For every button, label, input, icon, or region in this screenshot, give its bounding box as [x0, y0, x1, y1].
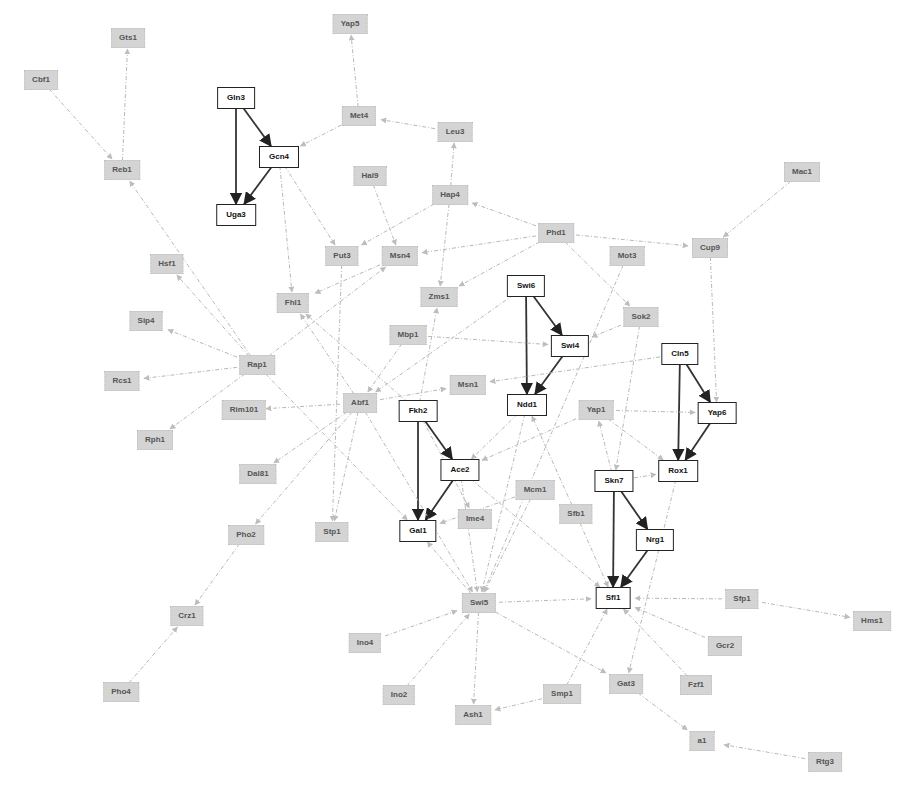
node-gcr2[interactable]: Gcr2 — [708, 636, 742, 656]
edge-cln5-to-msn1 — [490, 357, 660, 382]
node-ndd1[interactable]: Ndd1 — [507, 394, 547, 416]
edge-gcn4-to-put3 — [285, 166, 335, 245]
edge-hap4-to-zms1 — [440, 204, 449, 286]
node-rap1[interactable]: Rap1 — [239, 355, 275, 375]
node-cup9[interactable]: Cup9 — [692, 238, 728, 258]
edge-sfp1-to-hms1 — [762, 602, 850, 617]
edge-leu3-to-met4 — [381, 120, 435, 129]
node-cln5[interactable]: Cln5 — [661, 343, 698, 365]
node-rim101[interactable]: Rim101 — [222, 400, 266, 420]
node-gcn4[interactable]: Gcn4 — [259, 146, 299, 168]
node-msn1[interactable]: Msn1 — [450, 375, 486, 395]
node-hap4[interactable]: Hap4 — [432, 185, 468, 205]
edge-cup9-to-yap6 — [710, 257, 716, 402]
edge-mac1-to-cup9 — [723, 181, 791, 237]
node-mbp1[interactable]: Mbp1 — [390, 325, 427, 345]
edge-rox1-to-gat3 — [629, 480, 676, 673]
edge-rap1-to-sip4 — [168, 330, 237, 357]
node-put3[interactable]: Put3 — [325, 246, 358, 266]
edge-skn7-to-rox1 — [634, 474, 656, 477]
edge-swi5-to-gal1 — [427, 542, 471, 594]
node-fkh2[interactable]: Fkh2 — [399, 400, 438, 422]
node-ino4[interactable]: Ino4 — [349, 633, 381, 653]
node-zms1[interactable]: Zms1 — [421, 287, 458, 307]
node-hsf1[interactable]: Hsf1 — [150, 254, 183, 274]
edge-swi5-to-ash1 — [474, 612, 479, 704]
node-swi6[interactable]: Swi6 — [507, 275, 545, 297]
edge-ace2-to-swi5 — [461, 479, 477, 592]
node-pho4[interactable]: Pho4 — [103, 682, 139, 702]
edge-put3-to-stp1 — [332, 265, 341, 521]
node-crz1[interactable]: Crz1 — [170, 606, 203, 626]
node-abf1[interactable]: Abf1 — [343, 393, 377, 413]
node-ime4[interactable]: Ime4 — [458, 509, 492, 529]
edge-gcn4-to-fhl1 — [280, 166, 292, 292]
edge-mbp1-to-abf1 — [368, 344, 402, 392]
node-yap1[interactable]: Yap1 — [579, 400, 614, 420]
node-sfl1[interactable]: Sfl1 — [596, 587, 631, 609]
edge-reb1-to-gts1 — [122, 49, 127, 161]
node-leu3[interactable]: Leu3 — [438, 122, 473, 142]
node-dal81[interactable]: Dal81 — [239, 464, 276, 484]
node-mot3[interactable]: Mot3 — [610, 246, 645, 266]
node-ash1[interactable]: Ash1 — [455, 705, 491, 725]
node-rcs1[interactable]: Rcs1 — [104, 371, 139, 391]
node-hal9[interactable]: Hal9 — [354, 166, 387, 186]
edge-skn7-to-yap1 — [599, 421, 612, 472]
node-pho2[interactable]: Pho2 — [228, 525, 264, 545]
node-reb1[interactable]: Reb1 — [104, 160, 140, 180]
node-a1[interactable]: a1 — [690, 731, 715, 751]
node-swi4[interactable]: Swi4 — [551, 335, 589, 357]
edge-met4-to-gcn4 — [300, 125, 341, 146]
node-mcm1[interactable]: Mcm1 — [516, 480, 555, 500]
node-gts1[interactable]: Gts1 — [111, 28, 145, 48]
node-gln3[interactable]: Gln3 — [217, 87, 255, 109]
node-ace2[interactable]: Ace2 — [440, 459, 479, 481]
node-nrg1[interactable]: Nrg1 — [636, 529, 674, 551]
node-gal1[interactable]: Gal1 — [399, 520, 436, 542]
node-met4[interactable]: Met4 — [342, 106, 376, 126]
node-swi5[interactable]: Swi5 — [462, 593, 496, 613]
node-cbf1[interactable]: Cbf1 — [24, 70, 58, 90]
node-stp1[interactable]: Stp1 — [315, 522, 348, 542]
edge-abf1-to-swi5 — [365, 412, 472, 592]
edge-smp1-to-sfl1 — [567, 609, 607, 685]
node-mac1[interactable]: Mac1 — [784, 162, 820, 182]
node-fzf1[interactable]: Fzf1 — [680, 675, 712, 695]
edge-fzf1-to-sfl1 — [623, 609, 687, 676]
edge-skn7-to-nrg1 — [620, 490, 647, 529]
node-skn7[interactable]: Skn7 — [594, 470, 633, 492]
edge-rtg3-to-a1 — [724, 745, 805, 759]
edge-yap1-to-yap6 — [616, 410, 695, 412]
edge-ino4-to-swi5 — [385, 611, 457, 636]
edge-abf1-to-msn1 — [380, 389, 446, 400]
edge-swi6-to-ndd1 — [526, 295, 527, 394]
edge-skn7-to-sfl1 — [613, 490, 614, 587]
node-hms1[interactable]: Hms1 — [853, 611, 891, 631]
node-sip4[interactable]: Sip4 — [130, 311, 163, 331]
node-uga3[interactable]: Uga3 — [216, 204, 256, 226]
node-rph1[interactable]: Rph1 — [137, 430, 173, 450]
edge-gcn4-to-uga3 — [244, 166, 272, 204]
edge-smp1-to-ash1 — [495, 699, 542, 710]
node-smp1[interactable]: Smp1 — [543, 684, 581, 704]
node-gat3[interactable]: Gat3 — [609, 674, 643, 694]
node-yap5[interactable]: Yap5 — [333, 14, 368, 34]
node-yap6[interactable]: Yap6 — [698, 402, 737, 424]
node-sfb1[interactable]: Sfb1 — [559, 504, 592, 524]
edge-gcr2-to-sfl1 — [635, 607, 705, 637]
edge-phd1-to-hap4 — [472, 203, 536, 226]
node-fhl1[interactable]: Fhl1 — [277, 293, 309, 313]
edge-hap4-to-put3 — [361, 204, 434, 245]
node-rtg3[interactable]: Rtg3 — [808, 752, 842, 772]
node-msn4[interactable]: Msn4 — [382, 246, 418, 266]
edge-nrg1-to-sfl1 — [621, 549, 649, 587]
node-rox1[interactable]: Rox1 — [658, 460, 698, 482]
edge-phd1-to-cup9 — [576, 235, 688, 246]
node-phd1[interactable]: Phd1 — [538, 223, 574, 243]
edge-gln3-to-gcn4 — [243, 107, 271, 146]
node-ino2[interactable]: Ino2 — [383, 685, 415, 705]
node-sok2[interactable]: Sok2 — [623, 307, 658, 327]
edge-swi5-to-sfl1 — [499, 599, 591, 602]
node-sfp1[interactable]: Sfp1 — [725, 589, 758, 609]
